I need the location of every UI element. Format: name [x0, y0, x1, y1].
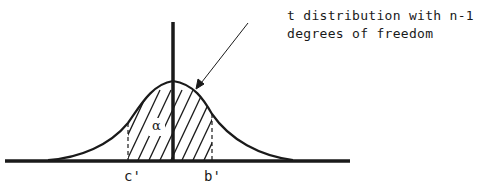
b-prime-label: b': [204, 168, 221, 184]
c-prime-label: c': [124, 168, 141, 184]
annotation-line-2: degrees of freedom: [287, 25, 474, 43]
annotation-line-1: t distribution with n-1: [287, 7, 474, 25]
alpha-label: α: [152, 118, 161, 133]
t-distribution-curve: [48, 81, 293, 160]
annotation-text: t distribution with n-1degrees of freedo…: [287, 7, 474, 43]
annotation-arrow: [196, 23, 248, 89]
